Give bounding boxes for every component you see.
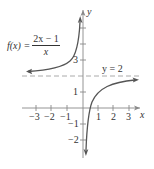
x-tick-label-m2: −2 <box>44 111 55 122</box>
x-tick-label-3: 3 <box>126 111 131 122</box>
x-axis-label: x <box>139 109 145 120</box>
y-axis-label: y <box>86 6 92 17</box>
curve-left-top-arrow-icon <box>78 16 83 23</box>
function-fraction: 2x − 1 x <box>32 34 60 57</box>
y-tick-label-3: 3 <box>73 54 78 65</box>
function-numerator: 2x − 1 <box>32 34 60 46</box>
x-tick-label-2: 2 <box>111 111 116 122</box>
asymptote-label: y = 2 <box>102 63 123 74</box>
function-lhs: f(x) = <box>7 40 30 51</box>
function-label: f(x) = 2x − 1 x <box>7 34 60 57</box>
function-graph: y x 3 1 −1 −2 −3 −2 −1 1 2 3 y = 2 <box>0 0 154 169</box>
x-tick-label-m3: −3 <box>29 111 40 122</box>
function-denominator: x <box>44 46 48 57</box>
x-tick-label-m1: −1 <box>60 111 71 122</box>
y-tick-label-m2: −2 <box>68 134 79 145</box>
y-tick-label-1: 1 <box>73 86 78 97</box>
curve-right-bottom-arrow-icon <box>84 149 89 156</box>
x-tick-label-1: 1 <box>96 111 101 122</box>
